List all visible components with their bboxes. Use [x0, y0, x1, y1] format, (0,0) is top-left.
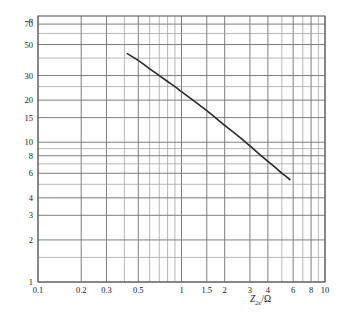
- x-tick-label: 0.2: [76, 285, 87, 295]
- x-tick-label: 10: [321, 285, 330, 295]
- x-axis-label: Z2e/Ω: [250, 294, 271, 306]
- y-tick-label: 1: [29, 277, 33, 287]
- y-tick-label: 6: [29, 168, 33, 178]
- x-tick-label: 0.5: [133, 285, 144, 295]
- y-tick-label: 2: [29, 235, 33, 245]
- vertical-gridlines: [38, 16, 325, 282]
- y-tick-label: 8: [29, 151, 33, 161]
- chart-canvas: 0.10.20.30.511.52346810 1234681015203050…: [0, 0, 339, 323]
- x-axis-label-unit: /Ω: [261, 294, 271, 304]
- y-tick-label: 10: [25, 137, 34, 147]
- x-tick-label: 6: [291, 285, 295, 295]
- y-tick-label: 30: [25, 71, 34, 81]
- x-tick-label: 0.1: [33, 285, 44, 295]
- x-tick-label: 8: [309, 285, 313, 295]
- log-log-chart: 0.10.20.30.511.52346810 1234681015203050…: [0, 0, 339, 323]
- y-tick-label: 3: [29, 210, 33, 220]
- y-tick-label: 50: [25, 40, 34, 50]
- y-axis-label: n: [29, 15, 34, 25]
- chart-background: [0, 0, 339, 323]
- y-tick-label: 20: [25, 95, 34, 105]
- x-tick-label: 1.5: [201, 285, 212, 295]
- y-tick-label: 15: [25, 113, 34, 123]
- x-tick-label: 2: [223, 285, 227, 295]
- x-tick-label: 0.3: [101, 285, 112, 295]
- x-tick-label: 1: [179, 285, 183, 295]
